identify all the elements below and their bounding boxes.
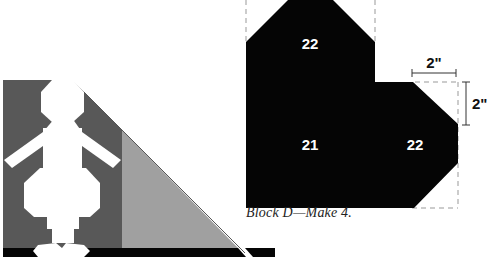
figure-head bbox=[41, 80, 84, 122]
block-d: 22 21 22 2" 2" bbox=[246, 0, 487, 208]
block-caption: Block D—Make 4. bbox=[246, 205, 352, 221]
dimension-horizontal-label: 2" bbox=[426, 54, 441, 71]
figure-block-illustration bbox=[3, 80, 275, 257]
quilt-diagram: 22 21 22 2" 2" bbox=[0, 0, 490, 266]
block-d-shape bbox=[246, 0, 458, 208]
piece-label-bottom-left: 21 bbox=[302, 136, 319, 153]
piece-label-bottom-right: 22 bbox=[407, 136, 424, 153]
dimension-vertical bbox=[462, 82, 470, 125]
figure-skirt bbox=[24, 168, 100, 217]
black-bottom-strip-right bbox=[245, 248, 275, 257]
piece-label-top: 22 bbox=[302, 35, 319, 52]
dimension-vertical-label: 2" bbox=[472, 95, 487, 112]
